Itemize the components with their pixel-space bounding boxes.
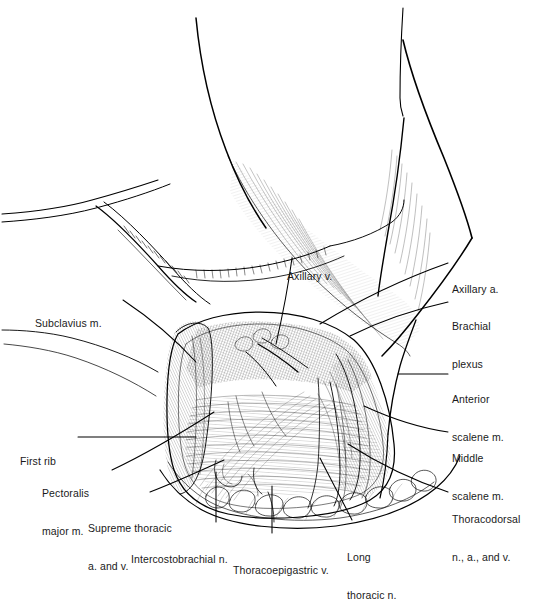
label-line: Middle [452,452,504,465]
label-line: thoracic n. [347,589,397,602]
label-line: Axillary a. [452,283,499,296]
label-line: Intercostobrachial n. [131,553,228,566]
label-line: Subclavius m. [35,317,102,330]
label-line: Brachial [452,320,491,333]
label-subclavius-muscle: Subclavius m. [35,292,102,342]
label-axillary-vein: Axillary v. [287,245,332,295]
label-line: Long [347,551,397,564]
label-line: major m. [42,525,89,538]
label-line: Thoracodorsal [452,513,520,526]
label-line: n., a., and v. [452,551,520,564]
label-line: Thoracoepigastric v. [233,564,329,577]
label-line: Axillary v. [287,270,332,283]
label-line: Anterior [452,393,504,406]
label-pectoralis-major-muscle: Pectoralis major m. [42,462,89,550]
label-long-thoracic-nerve: Long thoracic n. [347,526,397,603]
label-line: Pectoralis [42,487,89,500]
label-thoracodorsal-neurovascular-bundle: Thoracodorsal n., a., and v. [452,488,520,576]
label-thoracoepigastric-vein: Thoracoepigastric v. [233,539,329,589]
label-intercostobrachial-nerve: Intercostobrachial n. [131,528,228,578]
